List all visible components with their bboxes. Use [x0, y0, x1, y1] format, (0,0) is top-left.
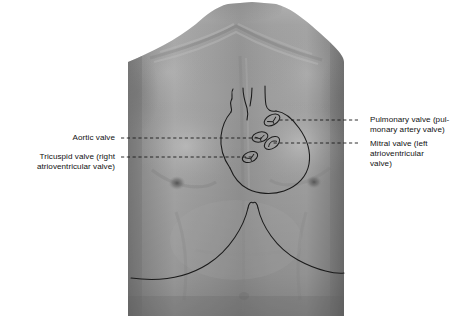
aortic-valve-label: Aortic valve	[73, 133, 115, 143]
tricuspid-valve-label: Tricuspid valve (right atrioventricular …	[0, 152, 115, 172]
pulmonary-valve-label: Pulmonary valve (pul- monary artery valv…	[370, 115, 473, 135]
right-nipple-landmark	[306, 175, 322, 188]
mitral-valve-label: Mitral valve (left atrioventricular valv…	[370, 139, 473, 170]
left-nipple-landmark	[169, 176, 186, 190]
surface-anatomy-figure: Aortic valve Tricuspid valve (right atri…	[0, 0, 473, 332]
